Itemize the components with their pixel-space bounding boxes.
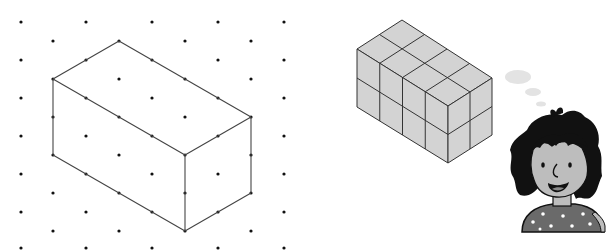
girl-shirt [522,204,604,232]
thought-bubble-puff [536,102,546,107]
cuboid-edge [53,155,185,231]
grid-dot [51,39,54,42]
thought-bubble-puff [525,88,541,96]
grid-dot [84,210,87,213]
grid-dot [282,134,285,137]
grid-dot [19,134,22,137]
grid-dot [19,172,22,175]
grid-dot [249,229,252,232]
grid-dot [183,115,186,118]
grid-dot [150,20,153,23]
grid-dot [150,172,153,175]
grid-dot [216,20,219,23]
grid-dot [84,20,87,23]
grid-dot [249,39,252,42]
grid-dot [282,172,285,175]
grid-dot [84,246,87,249]
grid-dot [282,58,285,61]
girl-eye-left [541,162,545,168]
cuboid-edge [119,41,251,117]
grid-dot [19,20,22,23]
figure [0,0,614,251]
grid-dot [51,229,54,232]
grid-dot [51,191,54,194]
grid-dot [117,77,120,80]
unit-cube-stack [357,20,492,163]
thought-bubble-puff [505,70,531,84]
grid-dot [117,229,120,232]
grid-dot [19,246,22,249]
girl-eye-right [568,162,572,168]
grid-dot [150,96,153,99]
grid-dot [84,134,87,137]
grid-dot [216,246,219,249]
grid-dot [282,96,285,99]
cuboid-edge [53,79,185,155]
cuboid-edge [185,193,251,231]
grid-dot [282,20,285,23]
grid-dot [19,210,22,213]
grid-dot [282,210,285,213]
thought-bubble [505,70,546,107]
grid-dot [183,39,186,42]
grid-dot [117,153,120,156]
grid-dot [216,172,219,175]
isometric-dot-grid [19,20,285,249]
drawn-cuboid-outline [53,41,251,231]
grid-dot [19,96,22,99]
grid-dot [150,246,153,249]
girl-character [510,108,605,232]
cuboid-edge [53,41,119,79]
grid-dot [282,246,285,249]
grid-dot [216,58,219,61]
grid-dot [19,58,22,61]
cuboid-edge [185,117,251,155]
figure-canvas [0,0,614,251]
grid-dot [249,77,252,80]
